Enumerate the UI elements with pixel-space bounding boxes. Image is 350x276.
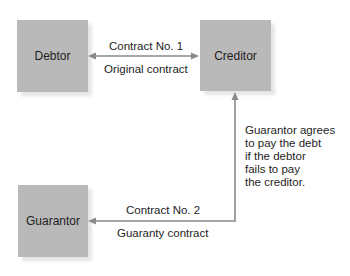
contract-2-label: Contract No. 2 bbox=[126, 204, 200, 216]
contract-2-line bbox=[93, 97, 235, 221]
arrowhead-right-icon bbox=[191, 53, 199, 60]
note-line: Guarantor agrees bbox=[245, 124, 335, 137]
arrowhead-left-icon bbox=[88, 53, 96, 60]
arrowhead-left-icon bbox=[88, 218, 96, 225]
guarantor-note: Guarantor agrees to pay the debt if the … bbox=[245, 124, 335, 189]
note-line: if the debtor bbox=[245, 150, 335, 163]
note-line: the creditor. bbox=[245, 176, 335, 189]
original-contract-label: Original contract bbox=[104, 63, 188, 75]
note-line: to pay the debt bbox=[245, 137, 335, 150]
note-line: fails to pay bbox=[245, 163, 335, 176]
arrowhead-up-icon bbox=[232, 92, 239, 100]
guaranty-contract-label: Guaranty contract bbox=[117, 227, 208, 239]
contract-1-label: Contract No. 1 bbox=[109, 40, 183, 52]
